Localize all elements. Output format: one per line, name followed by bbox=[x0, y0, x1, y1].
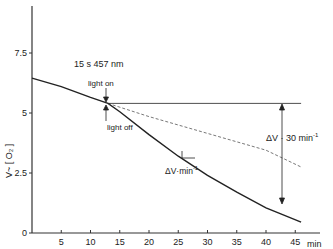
y-axis-label: V~ [ O₂ ] bbox=[4, 144, 14, 178]
axes bbox=[32, 6, 320, 233]
x-axis-unit: min bbox=[307, 239, 322, 249]
wavelength-label: 15 s 457 nm bbox=[74, 59, 124, 69]
slope-label: ΔV·min-1 bbox=[165, 165, 199, 176]
x-tick-label: 5 bbox=[59, 237, 64, 247]
x-tick-label: 35 bbox=[232, 237, 242, 247]
x-tick-label: 15 bbox=[115, 237, 125, 247]
slope-triangle bbox=[182, 151, 195, 158]
series-layer bbox=[32, 78, 301, 222]
light-on-label: light on bbox=[88, 79, 114, 88]
oxygen-trace-chart: 02.557.5 51015202530354045 min V~ [ O₂ ]… bbox=[0, 0, 333, 249]
x-tick-label: 30 bbox=[202, 237, 212, 247]
delta-label: ΔV · 30 min-1 bbox=[266, 132, 319, 143]
series-line bbox=[32, 78, 301, 222]
light-off-arrow bbox=[104, 105, 109, 121]
x-tick-label: 25 bbox=[173, 237, 183, 247]
x-tick-label: 20 bbox=[144, 237, 154, 247]
light-off-label: light off bbox=[107, 123, 133, 132]
x-tick-label: 40 bbox=[261, 237, 271, 247]
y-tick-label: 7.5 bbox=[14, 48, 27, 58]
delta-double-arrow bbox=[280, 104, 285, 204]
light-on-arrow bbox=[104, 88, 109, 102]
y-tick-label: 5 bbox=[22, 108, 27, 118]
y-tick-label: 2.5 bbox=[14, 168, 27, 178]
x-tick-label: 10 bbox=[85, 237, 95, 247]
y-tick-label: 0 bbox=[22, 228, 27, 238]
x-tick-label: 45 bbox=[290, 237, 300, 247]
y-ticks: 02.557.5 bbox=[14, 48, 32, 238]
